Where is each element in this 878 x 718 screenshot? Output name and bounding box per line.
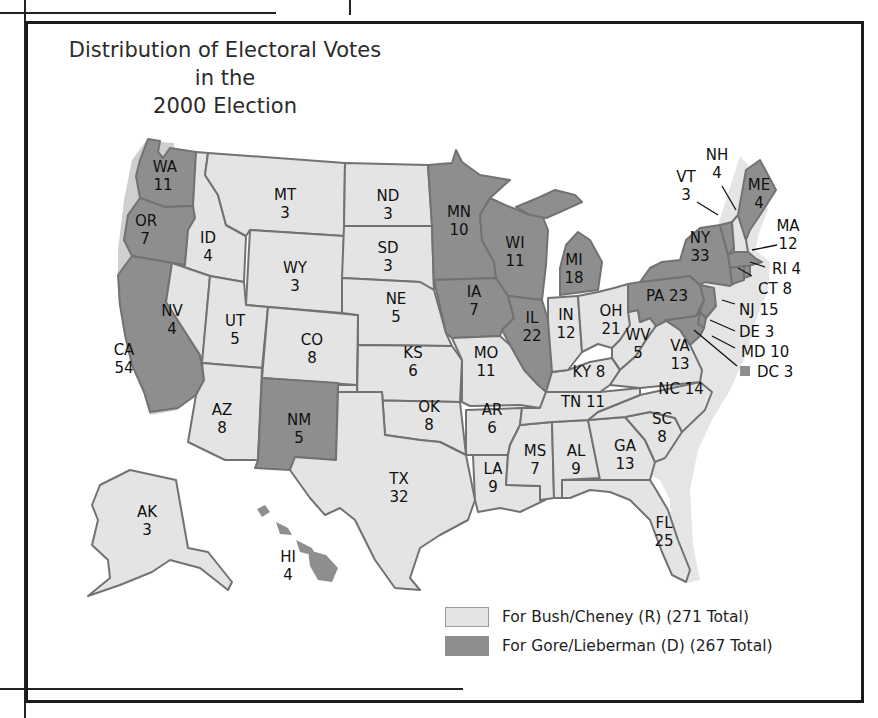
svg-text:PA 23: PA 23 [646,287,688,305]
svg-text:NH: NH [706,146,729,164]
svg-text:3: 3 [280,204,290,222]
svg-text:13: 13 [615,455,634,473]
svg-text:AZ: AZ [212,401,233,419]
svg-text:4: 4 [203,247,213,265]
svg-text:NV: NV [161,302,183,320]
legend-item-bush: For Bush/Cheney (R) (271 Total) [445,602,773,631]
state-CT [730,266,744,284]
svg-text:11: 11 [153,176,172,194]
svg-text:AK: AK [137,503,158,521]
svg-text:CT 8: CT 8 [758,280,792,298]
svg-text:MI: MI [565,251,582,269]
dc-marker [740,366,750,376]
svg-text:WY: WY [283,259,308,277]
svg-text:WA: WA [153,158,178,176]
svg-text:6: 6 [487,419,497,437]
svg-text:MS: MS [524,442,546,460]
svg-text:9: 9 [488,478,498,496]
svg-text:CA: CA [114,341,135,359]
svg-text:3: 3 [142,521,152,539]
svg-text:4: 4 [283,566,293,584]
svg-text:8: 8 [307,349,317,367]
svg-text:32: 32 [389,488,408,506]
svg-text:8: 8 [657,428,667,446]
svg-text:VA: VA [670,337,690,355]
svg-text:MN: MN [447,203,471,221]
state-OR [124,198,195,265]
svg-text:11: 11 [476,362,495,380]
svg-text:IN: IN [558,306,574,324]
svg-text:4: 4 [754,194,764,212]
svg-text:7: 7 [530,460,540,478]
svg-text:5: 5 [391,308,401,326]
svg-text:9: 9 [571,460,581,478]
svg-text:AL: AL [567,442,586,460]
svg-text:OR: OR [135,212,157,230]
svg-text:CO: CO [301,331,323,349]
svg-text:OK: OK [418,398,441,416]
svg-text:SD: SD [377,239,398,257]
svg-text:MO: MO [474,344,499,362]
svg-text:8: 8 [217,419,227,437]
svg-text:IA: IA [467,283,482,301]
svg-text:21: 21 [601,320,620,338]
svg-text:NC 14: NC 14 [658,380,704,398]
svg-text:AR: AR [482,401,503,419]
map-legend: For Bush/Cheney (R) (271 Total) For Gore… [445,602,773,660]
svg-text:TN 11: TN 11 [560,393,605,411]
svg-text:6: 6 [408,362,418,380]
svg-text:GA: GA [614,437,637,455]
svg-text:3: 3 [290,277,300,295]
svg-text:RI 4: RI 4 [772,260,801,278]
svg-text:5: 5 [230,330,240,348]
svg-text:KY 8: KY 8 [573,363,606,381]
svg-text:11: 11 [505,252,524,270]
svg-text:NM: NM [287,411,311,429]
svg-text:ME: ME [748,176,770,194]
svg-text:ND: ND [377,187,400,205]
legend-item-gore: For Gore/Lieberman (D) (267 Total) [445,631,773,660]
legend-swatch-gore [445,636,489,656]
svg-text:WV: WV [625,326,651,344]
legend-swatch-bush [445,607,489,627]
svg-text:FL: FL [656,514,674,532]
svg-text:NE: NE [386,290,407,308]
svg-text:OH: OH [599,302,622,320]
svg-text:TX: TX [388,470,408,488]
state-AK [88,470,232,596]
svg-text:DE 3: DE 3 [739,323,774,341]
state-HI [257,505,338,582]
svg-text:WI: WI [505,234,524,252]
svg-text:25: 25 [654,532,673,550]
svg-text:13: 13 [670,355,689,373]
svg-text:IL: IL [526,309,539,327]
svg-text:HI: HI [280,548,296,566]
svg-text:MD 10: MD 10 [741,343,789,361]
svg-text:KS: KS [403,344,422,362]
legend-label-gore: For Gore/Lieberman (D) (267 Total) [502,637,773,655]
svg-text:5: 5 [633,344,643,362]
svg-text:3: 3 [681,186,691,204]
svg-text:ID: ID [200,229,216,247]
svg-text:8: 8 [424,416,434,434]
svg-text:VT: VT [676,168,696,186]
svg-text:7: 7 [140,230,150,248]
svg-text:5: 5 [294,429,304,447]
svg-text:10: 10 [449,221,468,239]
svg-text:54: 54 [114,359,133,377]
svg-text:NY: NY [690,229,711,247]
svg-text:3: 3 [383,257,393,275]
svg-text:33: 33 [690,247,709,265]
state-MI-upper [516,190,582,218]
svg-text:22: 22 [522,327,541,345]
svg-text:SC: SC [652,410,672,428]
legend-label-bush: For Bush/Cheney (R) (271 Total) [502,608,749,626]
svg-text:UT: UT [225,312,246,330]
svg-text:MA: MA [776,217,800,235]
svg-text:MT: MT [274,186,297,204]
svg-text:7: 7 [469,301,479,319]
svg-text:4: 4 [712,164,722,182]
svg-text:3: 3 [383,205,393,223]
svg-text:12: 12 [778,235,797,253]
svg-text:NJ 15: NJ 15 [739,301,779,319]
